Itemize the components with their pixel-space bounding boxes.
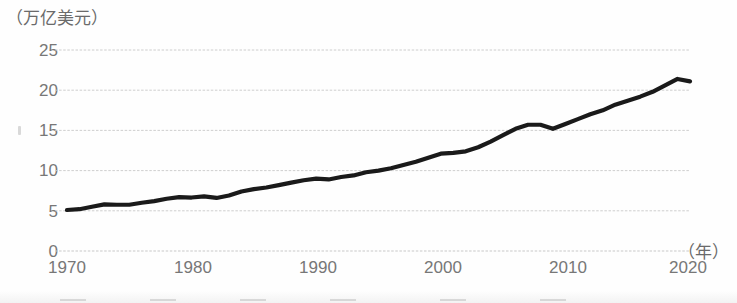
scan-mark-3 — [240, 299, 266, 301]
gridlines — [55, 50, 690, 251]
scan-mark-1 — [60, 299, 86, 301]
scan-mark-5 — [440, 299, 466, 301]
gdp-line-chart: （万亿美元） （年） 25 20 15 10 5 0 1970 1980 199… — [0, 0, 737, 303]
chart-plot-area — [0, 0, 737, 303]
scan-mark-2 — [150, 299, 176, 301]
scan-mark-4 — [330, 299, 356, 301]
gdp-series-line — [67, 79, 690, 210]
scan-mark-6 — [540, 299, 566, 301]
